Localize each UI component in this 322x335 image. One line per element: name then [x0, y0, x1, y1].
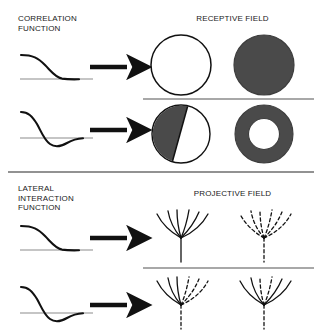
figure-artwork: [0, 0, 322, 335]
positive-correlation-curve: [20, 55, 93, 79]
solid-fan: [157, 210, 208, 262]
dashed-fan: [240, 210, 291, 262]
solid-outer-dashed-inner-fan: [240, 277, 291, 329]
positive-lateral-curve: [20, 226, 93, 250]
split-disc: [152, 105, 210, 163]
unfilled-disc: [151, 35, 211, 95]
center-surround-lateral-curve: [20, 287, 93, 321]
center-surround-correlation-curve: [20, 112, 93, 146]
figure-root: CORRELATION FUNCTION RECEPTIVE FIELD LAT…: [0, 0, 322, 335]
annulus-disc: [235, 105, 293, 163]
half-solid-half-dashed-fan: [157, 277, 208, 329]
filled-disc: [234, 35, 294, 95]
